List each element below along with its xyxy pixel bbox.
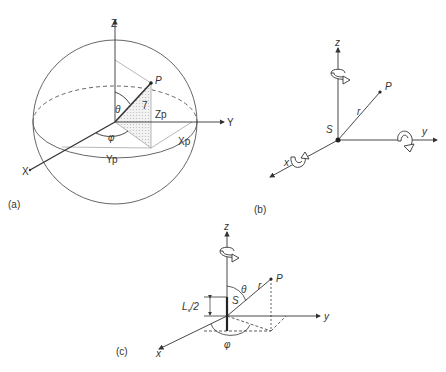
z-axis-label: z	[223, 221, 229, 232]
point-p-label: P	[155, 75, 162, 86]
figure-canvas: Z Y X P 7 θ φ Zp Xp Yp (a)	[0, 0, 446, 372]
yp-label: Yp	[106, 154, 118, 165]
rotation-z-icon	[331, 69, 350, 84]
phi-label: φ	[224, 339, 231, 350]
xp-label: Xp	[178, 136, 191, 147]
phi-label: φ	[108, 132, 115, 143]
panel-a: Z Y X P 7 θ φ Zp Xp Yp (a)	[8, 18, 234, 210]
x-axis-label: X	[22, 166, 29, 177]
theta-label: θ	[115, 104, 121, 115]
phi-arc	[211, 324, 250, 335]
zp-label: Zp	[155, 109, 167, 120]
rotation-z-icon	[220, 247, 239, 262]
length-label: Ls/2	[182, 301, 199, 313]
y-axis-label: y	[323, 311, 330, 322]
y-axis-label: Y	[227, 117, 234, 128]
z-axis-label: z	[334, 37, 340, 48]
radius-label: r	[357, 106, 361, 117]
panel-b: z y x P r S (b)	[254, 37, 437, 215]
rotation-x-icon	[291, 152, 309, 167]
point-p-label: P	[385, 81, 392, 92]
source-label: S	[326, 124, 333, 135]
source-label: S	[232, 295, 239, 306]
z-axis-label: Z	[111, 18, 117, 29]
x-axis	[159, 316, 227, 349]
rotation-y-icon	[398, 131, 414, 152]
panel-c: z y x P r S θ φ Ls/2 (c)	[116, 221, 330, 359]
x-axis	[30, 122, 115, 170]
panel-a-tag: (a)	[8, 199, 20, 210]
equator-front	[33, 122, 197, 158]
panel-b-tag: (b)	[254, 204, 266, 215]
point-p	[378, 90, 381, 93]
source-point	[336, 138, 341, 143]
x-axis-label: x	[155, 348, 162, 359]
point-p-label: P	[276, 273, 283, 284]
theta-arc	[115, 92, 130, 104]
y-axis-label: y	[421, 126, 428, 137]
radius-label: 7	[142, 100, 148, 111]
radius-label: r	[258, 280, 262, 291]
panel-c-tag: (c)	[116, 346, 128, 357]
theta-label: θ	[241, 284, 247, 295]
x-axis-label: x	[283, 157, 290, 168]
point-p	[149, 81, 153, 85]
